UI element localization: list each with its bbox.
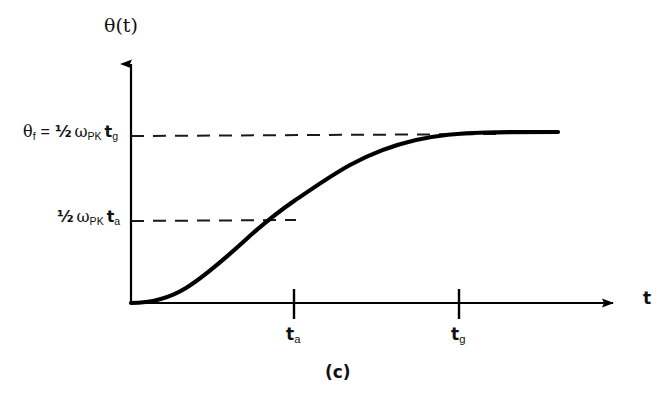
equals-sign: = <box>41 123 50 140</box>
tick-label-tg-base: t <box>451 324 459 344</box>
x-tick-label-tg: tg <box>451 326 465 345</box>
tick-label-tg-subscript: g <box>459 333 465 345</box>
tick-label-ta-base: t <box>286 324 294 344</box>
omega-subscript: PK <box>88 130 102 142</box>
one-half-fraction: ½ <box>57 207 74 226</box>
tick-label-ta-subscript: a <box>294 333 300 345</box>
level-label-theta-f: θf=½ωPKtg <box>23 124 118 142</box>
level-label-half-omega-ta: ½ωPKta <box>57 209 120 227</box>
time-subscript: a <box>114 215 120 227</box>
omega-subscript: PK <box>90 215 104 227</box>
one-half-fraction: ½ <box>55 122 72 141</box>
theta-symbol: θ <box>23 122 33 141</box>
y-axis-title: θ(t) <box>104 16 138 35</box>
x-axis-title: t <box>643 290 651 307</box>
x-tick-label-ta: ta <box>286 326 300 345</box>
figure-caption: (c) <box>325 364 351 381</box>
omega-symbol: ω <box>77 207 90 226</box>
x-axis-title-text: t <box>643 288 651 308</box>
figure-caption-text: (c) <box>325 362 351 382</box>
y-axis-title-text: θ(t) <box>104 14 138 36</box>
theta-curve <box>131 132 558 303</box>
omega-symbol: ω <box>74 122 87 141</box>
time-subscript: g <box>112 130 118 142</box>
figure-container: θ(t) θf=½ωPKtg ½ωPKta ta tg t (c) <box>0 0 669 413</box>
plot-canvas <box>0 0 669 413</box>
theta-subscript: f <box>33 130 36 142</box>
